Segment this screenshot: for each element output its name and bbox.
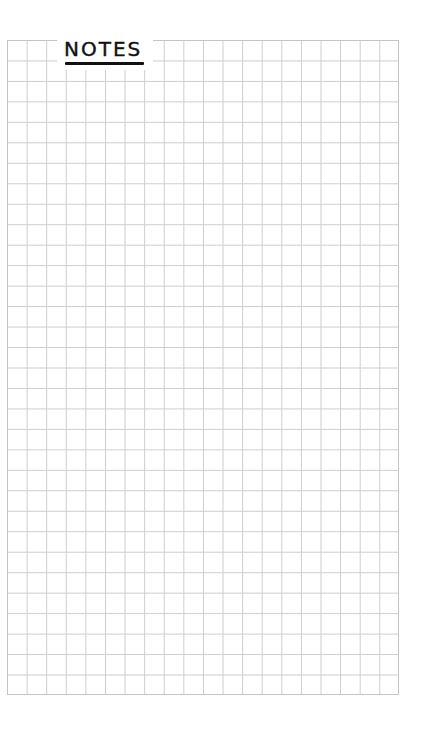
graph-paper-grid [7, 40, 399, 695]
page-title: NOTES [64, 38, 142, 60]
title-underline [65, 62, 144, 65]
notes-page: NOTES [0, 0, 432, 730]
